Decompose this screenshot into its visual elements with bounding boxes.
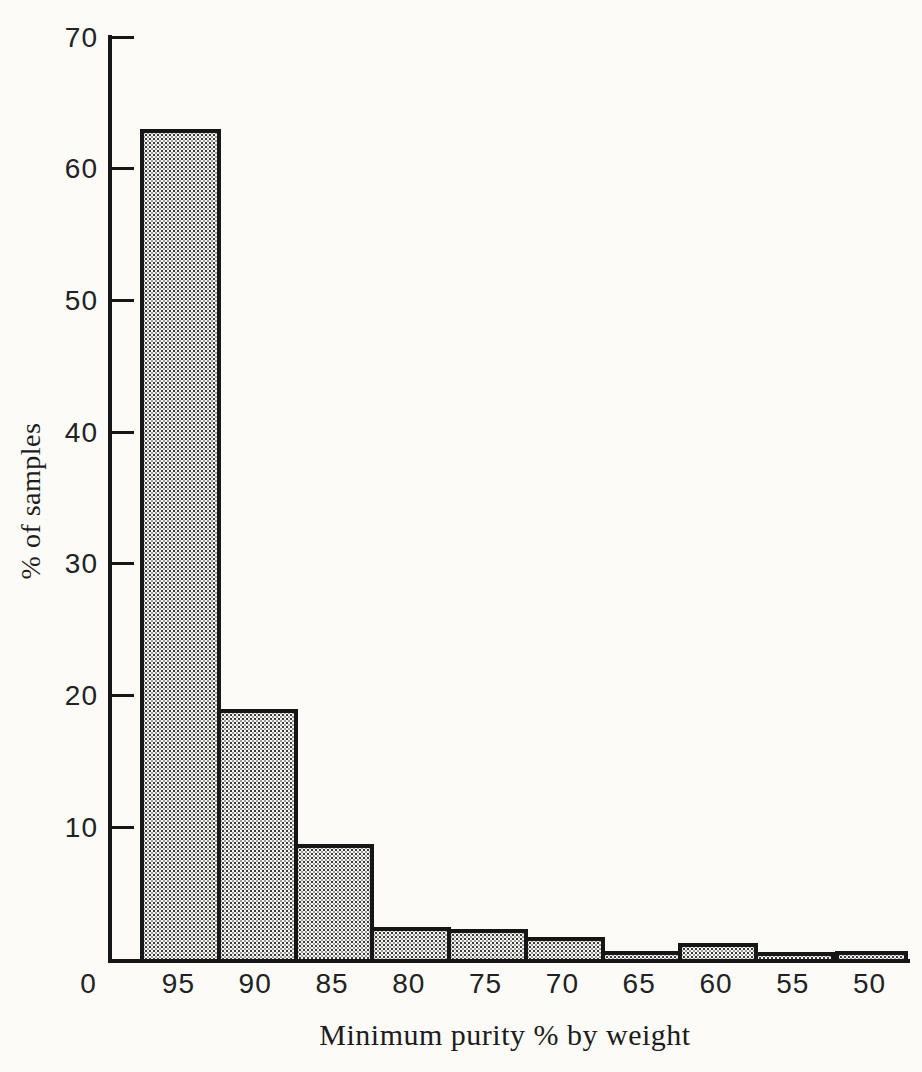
y-tick-label: 70 — [0, 23, 98, 52]
x-tick-label: 60 — [680, 968, 752, 1000]
y-tick-label: 20 — [0, 681, 98, 710]
x-axis-title: Minimum purity % by weight — [319, 1018, 690, 1052]
x-tick-label: 65 — [603, 968, 675, 1000]
x-tick-label: 85 — [296, 968, 368, 1000]
y-tick-label: 10 — [0, 813, 98, 842]
y-tick-mark — [112, 826, 134, 829]
x-tick-label: 55 — [757, 968, 829, 1000]
bar-95 — [140, 129, 221, 959]
bar-90 — [217, 709, 298, 959]
y-tick-label: 40 — [0, 418, 98, 447]
bar-70 — [524, 937, 605, 959]
x-tick-label: 80 — [373, 968, 445, 1000]
bar-80 — [370, 927, 451, 959]
x-tick-label: 95 — [142, 968, 214, 1000]
y-tick-mark — [112, 562, 134, 565]
bar-75 — [447, 929, 528, 959]
y-tick-mark — [112, 431, 134, 434]
x-tick-label: 50 — [834, 968, 906, 1000]
x-axis-line — [108, 959, 910, 963]
y-tick-mark — [112, 36, 134, 39]
bar-65 — [601, 951, 682, 959]
y-axis-line — [108, 35, 112, 963]
y-tick-label: 60 — [0, 154, 98, 183]
y-tick-mark — [112, 167, 134, 170]
y-tick-mark — [112, 299, 134, 302]
y-tick-mark — [112, 694, 134, 697]
histogram-figure: % of samples 70605040302010 959085807570… — [0, 0, 922, 1072]
x-origin-label: 0 — [58, 968, 118, 1000]
x-tick-label: 75 — [450, 968, 522, 1000]
bar-55 — [754, 952, 835, 959]
y-tick-label: 30 — [0, 549, 98, 578]
bar-60 — [678, 943, 759, 959]
x-tick-label: 70 — [526, 968, 598, 1000]
bar-85 — [294, 844, 375, 959]
y-tick-label: 50 — [0, 286, 98, 315]
x-tick-label: 90 — [219, 968, 291, 1000]
bar-50 — [835, 951, 908, 959]
